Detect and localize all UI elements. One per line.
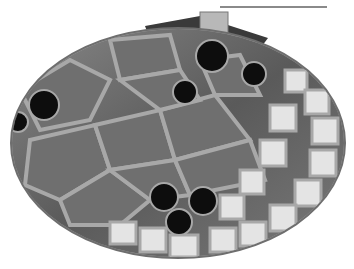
mosaic-photo <box>0 0 354 269</box>
mosaic-oval <box>0 0 354 269</box>
